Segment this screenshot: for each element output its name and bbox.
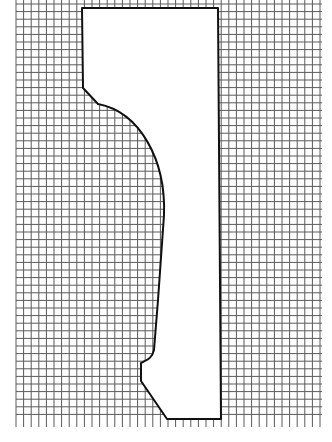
profile-diagram xyxy=(0,0,332,442)
graph-paper-diagram xyxy=(0,0,332,442)
